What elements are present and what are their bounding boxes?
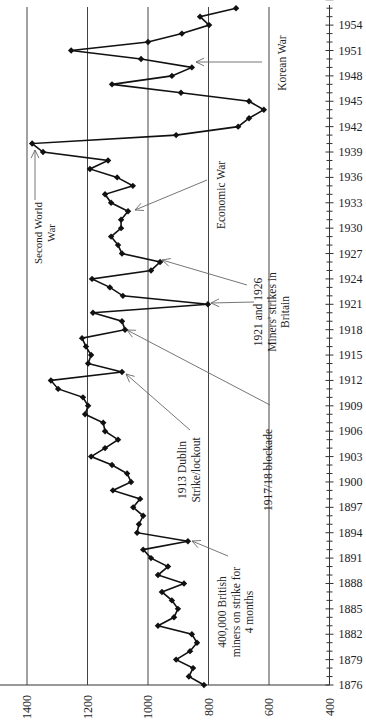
year-axis: 1876187918821885188818911894189719001903…	[326, 0, 363, 692]
data-point-marker	[122, 326, 128, 332]
data-point-marker	[100, 420, 106, 426]
year-tick-label: 1918	[339, 323, 363, 337]
value-tick-label: 1400	[20, 695, 34, 719]
data-point-marker	[246, 98, 252, 104]
year-tick-label: 1906	[339, 424, 363, 438]
year-tick-label: 1924	[339, 272, 363, 286]
data-point-marker	[130, 183, 136, 189]
data-point-marker	[124, 470, 130, 476]
year-tick-label: 1909	[339, 399, 363, 413]
annotation-second-world-war: Second WorldWar	[32, 201, 57, 264]
annotation-line: 400,000 British	[216, 576, 229, 648]
data-point-marker	[190, 665, 196, 671]
annotation-economic-war: Economic War	[215, 161, 227, 229]
data-point-marker	[128, 479, 134, 485]
data-point-marker	[173, 132, 179, 138]
data-point-marker	[134, 530, 140, 536]
data-point-marker	[201, 682, 207, 688]
data-point-marker	[119, 318, 125, 324]
arrow-korean-war-head	[196, 58, 204, 62]
value-tick-label: 800	[202, 698, 216, 716]
annotation-line: Economic War	[215, 161, 227, 229]
year-tick-label: 1945	[339, 94, 363, 108]
data-point-marker	[155, 623, 161, 629]
value-tick-label: 400	[323, 698, 337, 716]
arrow-1921-miners-head	[211, 299, 219, 303]
chart-canvas: 140012001000800600400 187618791882188518…	[0, 0, 366, 727]
data-point-marker	[171, 614, 177, 620]
data-point-marker	[85, 360, 91, 366]
arrow-second-world-war-head	[31, 150, 35, 158]
data-point-marker	[90, 310, 96, 316]
year-tick-label: 1933	[339, 196, 363, 210]
year-tick-label: 1948	[339, 69, 363, 83]
year-tick-label: 1942	[339, 120, 363, 134]
arrow-1926-miners-head	[162, 259, 171, 260]
annotation-line: Britain	[279, 296, 291, 328]
annotation-line: miners on strike for	[230, 567, 242, 658]
year-tick-label: 1900	[339, 475, 363, 489]
data-point-marker	[178, 90, 184, 96]
annotation-line: 1921 and 1926	[252, 278, 264, 347]
data-point-marker	[109, 462, 115, 468]
annotation-line: 1917/18 blockade	[262, 429, 274, 511]
data-point-marker	[105, 157, 111, 163]
annotation-1917-18-blockade: 1917/18 blockade	[262, 429, 274, 511]
year-tick-label: 1939	[339, 145, 363, 159]
annotation-line: Strike/lockout	[190, 437, 202, 503]
year-tick-label: 1927	[339, 247, 363, 261]
year-tick-label: 1885	[339, 602, 363, 616]
year-tick-label: 1888	[339, 576, 363, 590]
gridlines	[0, 7, 330, 685]
arrow-1893-miners	[192, 541, 228, 556]
data-point-marker	[119, 369, 125, 375]
year-tick-label: 1894	[339, 526, 363, 540]
arrow-1926-miners	[162, 260, 247, 285]
rotated-line-chart: 140012001000800600400 187618791882188518…	[0, 0, 366, 727]
data-point-marker	[89, 276, 95, 282]
year-tick-label: 1930	[339, 221, 363, 235]
year-tick-label: 1897	[339, 500, 363, 514]
year-tick-label: 1951	[339, 44, 363, 58]
value-tick-label: 600	[262, 698, 276, 716]
data-point-marker	[114, 174, 120, 180]
annotation-line: Second World	[32, 201, 44, 264]
annotation-line: 4 months	[243, 590, 255, 633]
annotation-arrows	[31, 58, 270, 556]
data-point-marker	[179, 30, 185, 36]
year-tick-label: 1954	[339, 18, 363, 32]
data-point-marker	[136, 521, 142, 527]
data-point-marker	[169, 73, 175, 79]
arrow-economic-war	[135, 180, 207, 210]
data-point-marker	[119, 250, 125, 256]
value-tick-label: 1000	[141, 695, 155, 719]
year-tick-label: 1891	[339, 551, 363, 565]
data-point-marker	[186, 673, 192, 679]
year-tick-label: 1882	[339, 627, 363, 641]
annotation-line: 1913 Dublin	[176, 441, 188, 499]
annotation-line: War	[45, 224, 57, 242]
data-point-marker	[145, 39, 151, 45]
annotation-line: Miners' strikes in	[266, 272, 278, 352]
data-point-marker	[189, 64, 195, 70]
year-tick-label: 1903	[339, 450, 363, 464]
year-tick-label: 1912	[339, 373, 363, 387]
data-point-marker	[109, 81, 115, 87]
value-tick-label: 1200	[81, 695, 95, 719]
data-point-marker	[138, 56, 144, 62]
annotation-1921-1926-miners: 1921 and 1926Miners' strikes inBritain	[252, 272, 291, 352]
year-tick-label: 1915	[339, 348, 363, 362]
data-point-marker	[110, 487, 116, 493]
data-point-marker	[233, 5, 239, 11]
data-point-marker	[68, 47, 74, 53]
arrow-second-world-war-head	[35, 150, 39, 158]
data-point-marker	[185, 538, 191, 544]
data-point-marker	[181, 580, 187, 586]
year-tick-label: 1879	[339, 653, 363, 667]
arrow-1921-miners-head	[211, 303, 219, 307]
data-point-marker	[79, 335, 85, 341]
data-point-marker	[205, 301, 211, 307]
arrow-1921-miners	[211, 302, 254, 303]
year-tick-label: 1921	[339, 297, 363, 311]
year-tick-label: 1936	[339, 170, 363, 184]
